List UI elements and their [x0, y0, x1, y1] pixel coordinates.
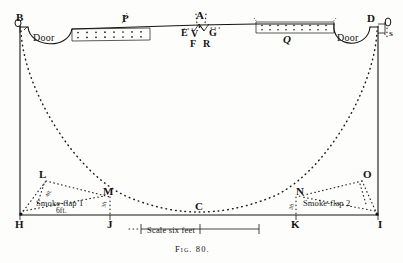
point-label-s: S	[389, 31, 393, 38]
point-label-o: O	[363, 169, 372, 180]
door-left-label: Door	[33, 33, 55, 43]
point-label-q: Q	[283, 34, 291, 45]
bottom-tick-marks	[20, 215, 378, 220]
point-label-g: G	[209, 28, 217, 38]
point-label-n: N	[296, 186, 304, 197]
point-label-r: R	[203, 39, 210, 49]
point-label-e: E	[181, 28, 188, 38]
point-label-l: L	[39, 169, 46, 180]
point-label-c: C	[195, 201, 203, 212]
point-label-j: J	[107, 219, 113, 230]
smoke-flap-1-dimension: 6ft.	[56, 207, 67, 215]
point-label-m: M	[103, 186, 113, 197]
top-edge-center-right-segment	[199, 24, 334, 25]
main-catenary-curve	[21, 31, 377, 212]
point-label-i: I	[378, 219, 382, 230]
figure-caption: Fig. 80.	[175, 245, 210, 254]
point-label-f: F	[190, 39, 196, 49]
door-right-label: Door	[337, 33, 359, 43]
point-label-b: B	[16, 12, 23, 23]
point-label-p: P	[122, 13, 129, 24]
point-label-h: H	[15, 219, 24, 230]
panel-q-stitching	[254, 18, 336, 33]
smoke-flap-2-label: Smoke-flap 2	[303, 199, 350, 208]
point-label-a: A	[196, 10, 204, 21]
point-label-d: D	[367, 13, 375, 24]
point-label-k: K	[291, 219, 300, 230]
scale-bar-label: Scale six feet	[147, 226, 195, 235]
figure-container: .solid{stroke:#141414;stroke-width:1.1;f…	[0, 0, 403, 263]
